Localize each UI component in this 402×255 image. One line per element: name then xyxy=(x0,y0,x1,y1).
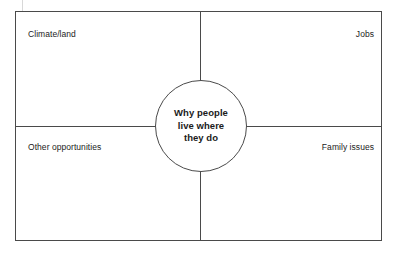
quadrant-diagram: Climate/land Jobs Other opportunities Fa… xyxy=(0,0,402,255)
center-hub-circle: Why people live where they do xyxy=(155,80,247,172)
quadrant-label-top-right: Jobs xyxy=(356,29,374,40)
quadrant-label-bottom-right: Family issues xyxy=(322,142,374,153)
scan-artifact xyxy=(22,0,23,11)
quadrant-label-bottom-left: Other opportunities xyxy=(28,142,101,153)
quadrant-label-top-left: Climate/land xyxy=(28,29,76,40)
center-hub-label: Why people live where they do xyxy=(174,107,228,145)
